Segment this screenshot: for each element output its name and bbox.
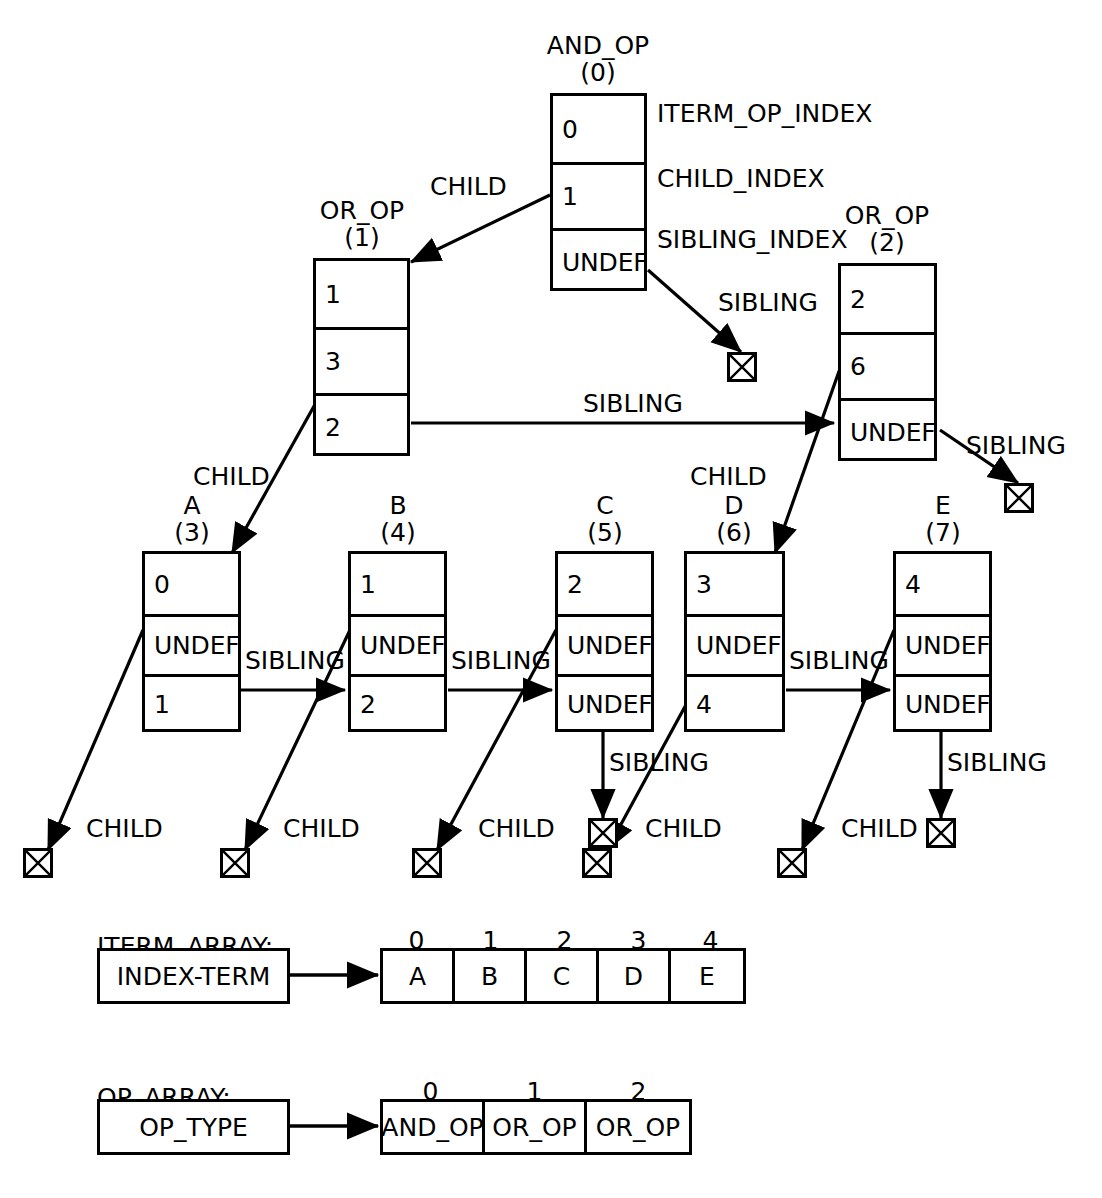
node-n7: 4 UNDEF UNDEF <box>893 551 992 732</box>
iterm-array-source: INDEX-TERM <box>97 948 290 1004</box>
node-label-n0: AND_OP(0) <box>500 33 696 87</box>
cell-sibling-index-n4: 2 <box>351 674 444 732</box>
iterm-array-cell-3: D <box>599 951 671 1001</box>
edge-label-n5-sibling: SIBLING <box>609 748 709 777</box>
null-child-c <box>412 848 442 878</box>
node-n3: 0 UNDEF 1 <box>142 551 241 732</box>
cell-child-index-n3: UNDEF <box>145 614 238 674</box>
edge-label-n0-child: CHILD <box>430 172 507 201</box>
node-index-n4: (4) <box>380 518 415 547</box>
cell-iterm-op-index-n6: 3 <box>687 554 782 614</box>
cell-child-index-n0: 1 <box>553 162 644 228</box>
node-label-n6: D(6) <box>636 493 832 547</box>
field-label-iterm-op-index: ITERM_OP_INDEX <box>657 99 872 128</box>
node-index-n7: (7) <box>925 518 960 547</box>
iterm-array-cell-1: B <box>455 951 527 1001</box>
cell-child-index-n2: 6 <box>841 332 934 398</box>
edge-label-n4-child: CHILD <box>283 814 360 843</box>
cell-iterm-op-index-n4: 1 <box>351 554 444 614</box>
op-array-source: OP_TYPE <box>97 1099 290 1155</box>
null-child-b <box>220 848 250 878</box>
node-label-n4: B(4) <box>300 493 496 547</box>
node-index-n6: (6) <box>716 518 751 547</box>
node-index-n5: (5) <box>587 518 622 547</box>
node-name-n3: A <box>183 491 200 520</box>
cell-sibling-index-n6: 4 <box>687 674 782 732</box>
null-child-a <box>23 848 53 878</box>
op-array-cells: AND_OP OR_OP OR_OP <box>380 1099 692 1155</box>
edge-label-n4-sibling: SIBLING <box>451 646 551 675</box>
edge-label-n3-sibling: SIBLING <box>245 646 345 675</box>
edge-label-n2-sibling: SIBLING <box>966 431 1066 460</box>
node-index-n0: (0) <box>580 58 615 87</box>
iterm-array-cells: A B C D E <box>380 948 746 1004</box>
cell-iterm-op-index-n1: 1 <box>316 261 407 327</box>
cell-child-index-n6: UNDEF <box>687 614 782 674</box>
field-label-child-index: CHILD_INDEX <box>657 164 825 193</box>
node-n4: 1 UNDEF 2 <box>348 551 447 732</box>
cell-child-index-n1: 3 <box>316 327 407 393</box>
null-sibling-0 <box>727 352 757 382</box>
iterm-array-cell-0: A <box>383 951 455 1001</box>
node-label-n1: OR_OP(1) <box>264 198 460 252</box>
node-index-n1: (1) <box>344 223 379 252</box>
cell-sibling-index-n0: UNDEF <box>553 228 644 294</box>
edge-label-n6-child: CHILD <box>645 814 722 843</box>
null-sibling-c <box>588 818 618 848</box>
cell-sibling-index-n5: UNDEF <box>558 674 651 732</box>
node-index-n2: (2) <box>869 228 904 257</box>
cell-child-index-n5: UNDEF <box>558 614 651 674</box>
edge-label-n7-child: CHILD <box>841 814 918 843</box>
node-label-n3: A(3) <box>94 493 290 547</box>
edge-label-n3-child: CHILD <box>86 814 163 843</box>
op-array-cell-1: OR_OP <box>485 1102 587 1152</box>
cell-sibling-index-n3: 1 <box>145 674 238 732</box>
op-array-cell-0: AND_OP <box>383 1102 485 1152</box>
edge-label-n1-child: CHILD <box>193 462 270 491</box>
node-n1: 1 3 2 <box>313 258 410 456</box>
cell-sibling-index-n7: UNDEF <box>896 674 989 732</box>
edge-label-n2-child: CHILD <box>690 462 767 491</box>
diagram-canvas: AND_OP(0) 0 1 UNDEF ITERM_OP_INDEX CHILD… <box>0 0 1102 1198</box>
op-array-cell-2: OR_OP <box>587 1102 689 1152</box>
null-child-d <box>582 848 612 878</box>
node-name-n7: E <box>935 491 951 520</box>
node-name-n5: C <box>596 491 613 520</box>
node-name-n2: OR_OP <box>845 201 929 230</box>
cell-iterm-op-index-n2: 2 <box>841 266 934 332</box>
edge-label-n1-sibling: SIBLING <box>583 389 683 418</box>
node-name-n6: D <box>724 491 743 520</box>
node-name-n1: OR_OP <box>320 196 404 225</box>
edge-label-n0-sibling: SIBLING <box>718 288 818 317</box>
cell-sibling-index-n2: UNDEF <box>841 398 934 464</box>
null-child-e <box>777 848 807 878</box>
iterm-array-cell-2: C <box>527 951 599 1001</box>
edge-label-n5-child: CHILD <box>478 814 555 843</box>
node-n2: 2 6 UNDEF <box>838 263 937 461</box>
node-n6: 3 UNDEF 4 <box>684 551 785 732</box>
node-label-n7: E(7) <box>845 493 1041 547</box>
cell-iterm-op-index-n7: 4 <box>896 554 989 614</box>
node-name-n0: AND_OP <box>547 31 649 60</box>
node-name-n4: B <box>389 491 406 520</box>
cell-child-index-n7: UNDEF <box>896 614 989 674</box>
node-label-n2: OR_OP(2) <box>789 203 985 257</box>
edge-label-n6-sibling: SIBLING <box>789 646 889 675</box>
node-n5: 2 UNDEF UNDEF <box>555 551 654 732</box>
null-sibling-e <box>926 818 956 848</box>
node-index-n3: (3) <box>174 518 209 547</box>
cell-iterm-op-index-n0: 0 <box>553 96 644 162</box>
cell-iterm-op-index-n3: 0 <box>145 554 238 614</box>
iterm-array-cell-4: E <box>671 951 743 1001</box>
cell-child-index-n4: UNDEF <box>351 614 444 674</box>
edge-label-n7-sibling: SIBLING <box>947 748 1047 777</box>
cell-iterm-op-index-n5: 2 <box>558 554 651 614</box>
cell-sibling-index-n1: 2 <box>316 393 407 459</box>
node-n0: 0 1 UNDEF <box>550 93 647 291</box>
